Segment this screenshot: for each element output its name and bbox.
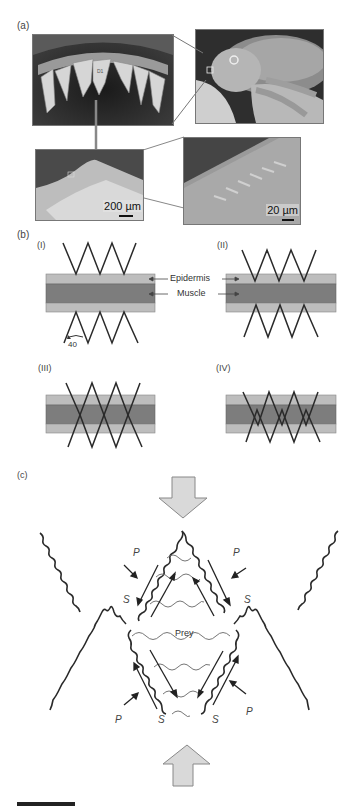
compression-arrow-up [163, 745, 210, 786]
jaw-outlines [40, 531, 338, 714]
force-label-s-bottom-right: S [212, 714, 219, 725]
force-label-p-bottom-right: P [246, 706, 253, 717]
force-label-s-top-right: S [244, 594, 251, 605]
force-label-p-top-right: P [233, 547, 240, 558]
footer-bar [17, 802, 75, 806]
force-label-p-top-left: P [133, 547, 140, 558]
panel-c-diagram [0, 0, 356, 807]
prey-label: Prey [175, 628, 194, 638]
force-label-s-top-left: S [123, 594, 130, 605]
force-label-s-bottom-left: S [158, 714, 165, 725]
compression-arrow-down [159, 477, 207, 518]
force-label-p-bottom-left: P [115, 714, 122, 725]
